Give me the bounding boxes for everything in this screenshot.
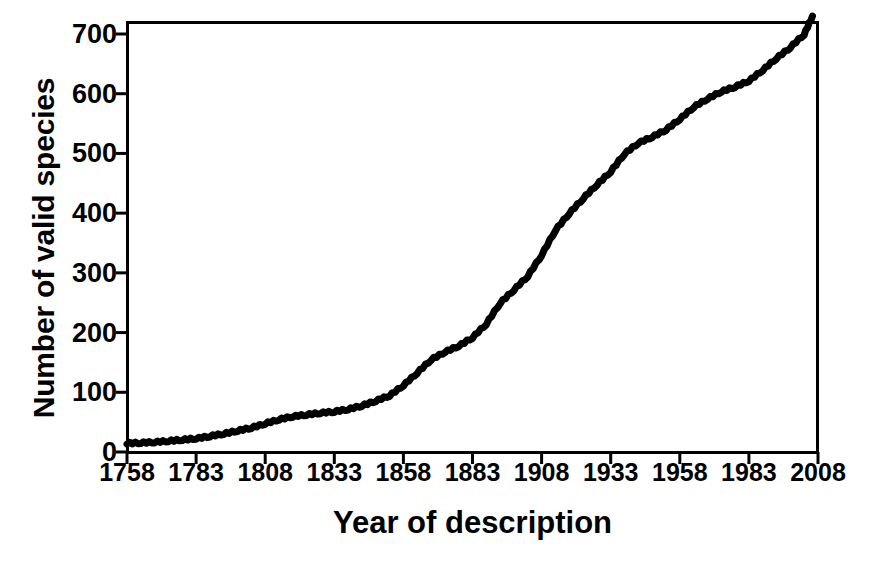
data-series-line [127, 16, 812, 444]
figure-chart-valid-species: Number of valid species 0100200300400500… [0, 0, 869, 573]
caption-remnant: . . . . . . . . . [140, 562, 840, 571]
x-axis-title: Year of description [127, 505, 818, 541]
plot-frame [128, 23, 818, 453]
plot-area [0, 0, 869, 573]
